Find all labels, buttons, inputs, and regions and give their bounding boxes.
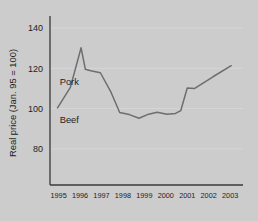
x-tick-label: 1996 — [72, 191, 88, 200]
x-axis-tick-labels: 199519961997199819992000200120022003 — [50, 191, 238, 200]
line-chart: 80100120140 1995199619971998199920002001… — [0, 0, 258, 221]
x-tick-label: 1999 — [136, 191, 152, 200]
chart-container: 80100120140 1995199619971998199920002001… — [0, 0, 258, 221]
y-tick-label: 100 — [28, 104, 43, 114]
x-tick-label: 1995 — [50, 191, 66, 200]
x-tick-label: 2002 — [201, 191, 217, 200]
x-tick-label: 2001 — [179, 191, 195, 200]
y-tick-label: 80 — [33, 144, 43, 154]
x-tick-label: 2003 — [222, 191, 238, 200]
series-label-pork: Pork — [60, 76, 80, 87]
series-label-beef: Beef — [60, 114, 80, 125]
x-tick-label: 2000 — [158, 191, 174, 200]
x-tick-label: 1998 — [115, 191, 131, 200]
y-tick-label: 120 — [28, 64, 43, 74]
y-axis-title: Real price (Jan. 95 = 100) — [7, 49, 18, 157]
x-tick-label: 1997 — [93, 191, 109, 200]
y-tick-label: 140 — [28, 23, 43, 33]
